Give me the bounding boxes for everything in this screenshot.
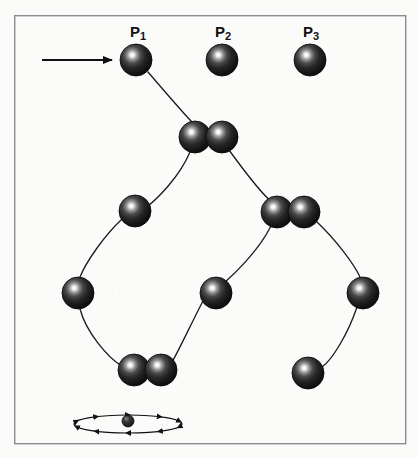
diagram-svg xyxy=(0,0,417,458)
sphere-label-p3: P3 xyxy=(303,24,319,39)
orbit-nucleus-sphere xyxy=(122,415,134,427)
sphere-far-left xyxy=(62,277,94,309)
sphere-pair-bot-right xyxy=(145,354,177,386)
sphere-center xyxy=(200,277,232,309)
bond-pairright-to-center xyxy=(224,226,271,283)
sphere-mid-left xyxy=(119,195,151,227)
bond-farright-to-botright xyxy=(322,307,357,367)
bond-pairtop-to-midleft xyxy=(148,152,190,206)
sphere-pair-top-right xyxy=(206,121,238,153)
bond-midleft-to-farleft xyxy=(80,219,122,277)
sphere-far-right xyxy=(347,277,379,309)
sphere-pair-right-right xyxy=(288,196,320,228)
orbit-legend-symbol xyxy=(74,415,182,433)
bond-pairright-to-farright xyxy=(317,222,360,277)
sphere-p1-sphere xyxy=(120,44,152,76)
bond-farleft-to-pairbot xyxy=(80,309,122,366)
sphere-label-p2: P2 xyxy=(215,24,231,39)
figure-frame xyxy=(15,16,406,444)
bond-p1-to-pairtop xyxy=(148,72,192,122)
sphere-bot-right xyxy=(292,357,324,389)
figure-canvas: P1 P2 P3 xyxy=(0,0,417,458)
sphere-group xyxy=(62,44,379,389)
bond-pairtop-to-pairright xyxy=(229,150,272,202)
sphere-label-p1: P1 xyxy=(130,24,146,39)
sphere-p2-sphere xyxy=(206,44,238,76)
bond-center-to-pairbot xyxy=(172,301,203,362)
sphere-p3-sphere xyxy=(294,44,326,76)
